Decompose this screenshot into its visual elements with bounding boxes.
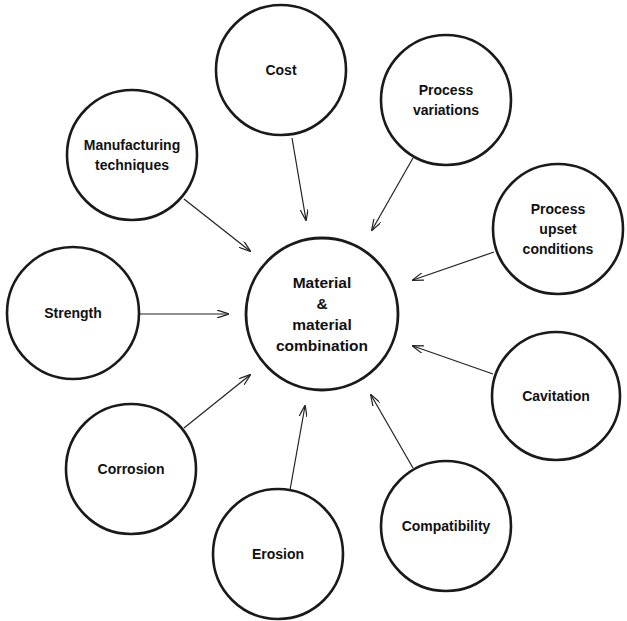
center-label-line: combination [276,337,368,354]
node-process-variations: Processvariations [381,35,511,165]
manufacturing-techniques-label-line: Manufacturing [84,137,180,153]
strength-label-line: Strength [44,305,102,321]
process-upset-conditions-label-line: conditions [523,241,594,257]
arrow-cavitation-to-center [413,346,493,374]
node-erosion: Erosion [213,489,343,619]
arrow-erosion-to-center [290,406,305,490]
manufacturing-techniques-circle [67,90,197,220]
node-strength: Strength [7,247,139,379]
arrow-cost-to-center [292,138,306,220]
node-process-upset-conditions: Processupsetconditions [493,164,623,294]
erosion-label-line: Erosion [252,546,304,562]
arrow-process-upset-conditions-to-center [413,252,494,280]
center-circle [246,238,398,390]
cost-label-line: Cost [265,62,296,78]
center-node: Material&materialcombination [246,238,398,390]
process-variations-circle [381,35,511,165]
node-material: Material&materialcombination [246,238,398,390]
process-upset-conditions-label-line: Process [531,201,586,217]
center-label-line: Material [293,274,352,291]
center-label-line: material [292,316,351,333]
arrow-compatibility-to-center [371,395,413,468]
arrow-process-variations-to-center [372,158,413,230]
node-cost: Cost [216,5,346,135]
node-corrosion: Corrosion [66,404,196,534]
cavitation-label-line: Cavitation [522,388,590,404]
node-cavitation: Cavitation [492,332,620,460]
arrow-corrosion-to-center [184,375,250,428]
compatibility-label-line: Compatibility [402,518,491,534]
process-variations-label-line: variations [413,102,479,118]
center-label-line: & [316,295,327,312]
corrosion-label-line: Corrosion [98,461,165,477]
node-compatibility: Compatibility [381,461,511,591]
material-selection-diagram: CostProcessvariationsManufacturingtechni… [0,0,627,621]
process-upset-conditions-label-line: upset [539,221,577,237]
process-variations-label-line: Process [419,82,474,98]
manufacturing-techniques-label-line: techniques [95,157,169,173]
node-manufacturing-techniques: Manufacturingtechniques [67,90,197,220]
arrow-manufacturing-techniques-to-center [184,199,250,251]
